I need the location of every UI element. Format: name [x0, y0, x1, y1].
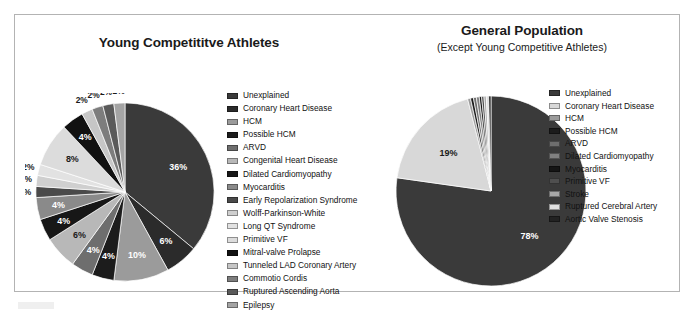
legend-young-athletes-label: HCM — [243, 115, 262, 128]
legend-swatch-icon — [227, 106, 238, 112]
legend-young-athletes-item[interactable]: Mitral-valve Prolapse — [227, 246, 357, 259]
pie-slice-label: 2% — [76, 95, 89, 105]
pie-slice-label: 78% — [521, 231, 539, 241]
legend-swatch-icon — [549, 178, 560, 184]
legend-general-population-label: Primitive VF — [565, 175, 610, 188]
legend-young-athletes-label: Wolff-Parkinson-White — [243, 207, 325, 220]
pie-slice-label: 2% — [25, 162, 35, 172]
pie-chart-young-athletes-svg: 36%6%10%4%4%6%4%4%2%2%2%8%4%2%2%2%2% — [25, 93, 225, 291]
pie-slice-label: 2% — [113, 93, 126, 96]
legend-swatch-icon — [549, 204, 560, 210]
legend-young-athletes-label: Long QT Syndrome — [243, 220, 315, 233]
pie-slice-label: 6% — [159, 236, 172, 246]
legend-general-population-label: Dilated Cardiomyopathy — [565, 150, 654, 163]
pie-slice-label: 19% — [440, 148, 458, 158]
legend-young-athletes-item[interactable]: Tunneled LAD Coronary Artery — [227, 259, 357, 272]
legend-swatch-icon — [227, 158, 238, 164]
legend-general-population-label: Possible HCM — [565, 125, 618, 138]
legend-swatch-icon — [549, 153, 560, 159]
legend-young-athletes-item[interactable]: Ruptured Ascending Aorta — [227, 285, 357, 298]
legend-swatch-icon — [227, 197, 238, 203]
legend-young-athletes-item[interactable]: Coronary Heart Disease — [227, 102, 357, 115]
legend-general-population-label: ARVD — [565, 137, 588, 150]
scan-artifact — [18, 302, 54, 309]
legend-swatch-icon — [549, 141, 560, 147]
legend-young-athletes-label: Myocarditis — [243, 181, 285, 194]
chart-panel-general-population: General Population (Except Young Competi… — [363, 15, 681, 291]
legend-general-population-item[interactable]: Myocarditis — [549, 163, 657, 176]
pie-slice-label: 4% — [57, 216, 70, 226]
chart-panel-young-athletes: Young Competititve Athletes 36%6%10%4%4%… — [15, 15, 363, 291]
legend-swatch-icon — [227, 184, 238, 190]
legend-general-population-item[interactable]: Aortic Valve Stenosis — [549, 213, 657, 226]
pie-slice-label: 10% — [128, 250, 146, 260]
legend-general-population-label: Ruptured Cerebral Artery — [565, 200, 657, 213]
legend-swatch-icon — [549, 90, 560, 96]
legend-young-athletes-label: ARVD — [243, 141, 266, 154]
legend-swatch-icon — [227, 145, 238, 151]
legend-general-population-item[interactable]: Dilated Cardiomyopathy — [549, 150, 657, 163]
chart-subtitle-general-population: (Except Young Competitive Athletes) — [363, 41, 681, 53]
legend-young-athletes-label: Primitive VF — [243, 233, 288, 246]
legend-general-population-item[interactable]: ARVD — [549, 137, 657, 150]
pie-slice-label: 4% — [87, 245, 100, 255]
legend-swatch-icon — [227, 119, 238, 125]
legend-general-population-item[interactable]: Primitive VF — [549, 175, 657, 188]
legend-young-athletes-label: Coronary Heart Disease — [243, 102, 332, 115]
legend-young-athletes-item[interactable]: Congenital Heart Disease — [227, 154, 357, 167]
legend-young-athletes-label: Epilepsy — [243, 299, 274, 312]
pie-slice-label: 4% — [102, 251, 115, 261]
legend-young-athletes-item[interactable]: Unexplained — [227, 89, 357, 102]
legend-young-athletes-item[interactable]: ARVD — [227, 141, 357, 154]
legend-swatch-icon — [549, 216, 560, 222]
legend-young-athletes-item[interactable]: Possible HCM — [227, 128, 357, 141]
pie-slice-label: 6% — [73, 230, 86, 240]
legend-young-athletes-label: Congenital Heart Disease — [243, 154, 338, 167]
legend-young-athletes-item[interactable]: Myocarditis — [227, 181, 357, 194]
legend-swatch-icon — [227, 132, 238, 138]
pie-slice-label: 2% — [100, 93, 113, 97]
legend-young-athletes-item[interactable]: Commotio Cordis — [227, 272, 357, 285]
legend-general-population-item[interactable]: Unexplained — [549, 87, 657, 100]
legend-general-population-item[interactable]: Ruptured Cerebral Artery — [549, 200, 657, 213]
legend-general-population-label: Unexplained — [565, 87, 611, 100]
legend-young-athletes-label: Possible HCM — [243, 128, 296, 141]
legend-young-athletes-label: Early Repolarization Syndrome — [243, 194, 357, 207]
legend-general-population-item[interactable]: Stroke — [549, 188, 657, 201]
legend-general-population-label: Aortic Valve Stenosis — [565, 213, 643, 226]
figure-frame: Young Competititve Athletes 36%6%10%4%4%… — [14, 14, 680, 292]
legend-swatch-icon — [227, 289, 238, 295]
legend-general-population: UnexplainedCoronary Heart DiseaseHCMPoss… — [549, 87, 657, 226]
legend-swatch-icon — [549, 191, 560, 197]
pie-slice-label: 8% — [66, 154, 79, 164]
legend-general-population-label: Myocarditis — [565, 163, 607, 176]
legend-swatch-icon — [227, 250, 238, 256]
legend-young-athletes-item[interactable]: Early Repolarization Syndrome — [227, 194, 357, 207]
legend-young-athletes: UnexplainedCoronary Heart DiseaseHCMPoss… — [227, 89, 357, 312]
legend-young-athletes-label: Commotio Cordis — [243, 272, 307, 285]
legend-young-athletes-item[interactable]: Wolff-Parkinson-White — [227, 207, 357, 220]
legend-young-athletes-item[interactable]: Long QT Syndrome — [227, 220, 357, 233]
legend-swatch-icon — [227, 237, 238, 243]
legend-young-athletes-item[interactable]: Primitive VF — [227, 233, 357, 246]
legend-young-athletes-label: Tunneled LAD Coronary Artery — [243, 259, 356, 272]
legend-swatch-icon — [549, 115, 560, 121]
legend-young-athletes-item[interactable]: Epilepsy — [227, 299, 357, 312]
chart-title-young-athletes: Young Competititve Athletes — [15, 35, 363, 50]
pie-chart-young-athletes: 36%6%10%4%4%6%4%4%2%2%2%8%4%2%2%2%2% — [25, 93, 225, 291]
legend-general-population-label: HCM — [565, 112, 584, 125]
legend-young-athletes-item[interactable]: HCM — [227, 115, 357, 128]
legend-swatch-icon — [227, 263, 238, 269]
legend-general-population-item[interactable]: Coronary Heart Disease — [549, 100, 657, 113]
pie-slice-label: 2% — [25, 187, 32, 197]
legend-swatch-icon — [227, 302, 238, 308]
legend-young-athletes-item[interactable]: Dilated Cardiomyopathy — [227, 168, 357, 181]
legend-swatch-icon — [549, 128, 560, 134]
pie-slice-label: 2% — [25, 174, 33, 184]
legend-young-athletes-label: Dilated Cardiomyopathy — [243, 168, 332, 181]
chart-title-general-population: General Population — [363, 23, 681, 38]
legend-young-athletes-label: Unexplained — [243, 89, 289, 102]
legend-general-population-item[interactable]: Possible HCM — [549, 125, 657, 138]
legend-swatch-icon — [227, 93, 238, 99]
legend-general-population-item[interactable]: HCM — [549, 112, 657, 125]
